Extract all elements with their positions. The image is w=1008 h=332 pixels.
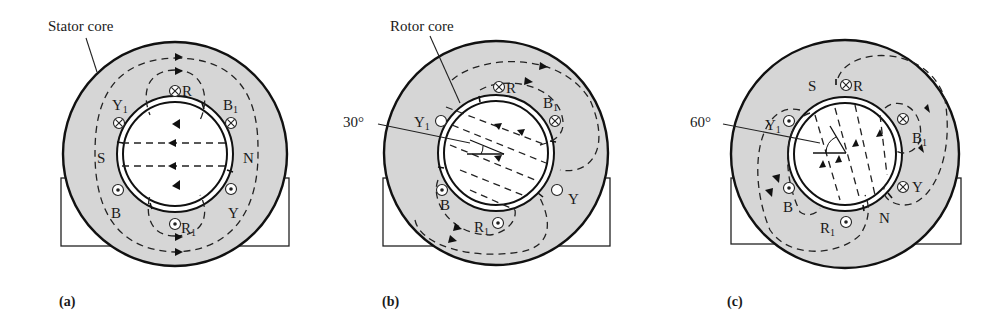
svg-text:B: B <box>783 199 793 215</box>
svg-text:R: R <box>853 78 863 94</box>
caption-a: (a) <box>59 294 76 310</box>
caption-b: (b) <box>382 294 399 310</box>
pole-n: N <box>879 210 890 226</box>
label-b: B <box>783 199 793 215</box>
conductor-r-cross <box>494 82 505 93</box>
pole-s: S <box>97 150 105 166</box>
conductor-b-dot <box>113 185 124 196</box>
conductor-r-cross <box>841 80 852 91</box>
conductor-r1-dot <box>170 219 181 230</box>
label-y1: Y <box>765 117 776 133</box>
conductor-y1-cross <box>114 118 125 129</box>
label-b: B <box>440 197 450 213</box>
svg-text:Y: Y <box>568 191 579 207</box>
svg-text:Y: Y <box>228 205 239 221</box>
label-b: B <box>111 205 121 221</box>
angle-label-30: 30° <box>343 114 364 130</box>
svg-text:B: B <box>111 205 121 221</box>
label-r: R <box>853 78 863 94</box>
conductor-y-empty <box>552 185 563 196</box>
conductor-r1-dot <box>493 218 504 229</box>
conductor-b1-cross <box>550 116 561 127</box>
svg-text:B: B <box>440 197 450 213</box>
label-y1: Y <box>112 97 123 113</box>
conductor-b1-cross <box>226 118 237 129</box>
label-r1: R <box>181 220 191 236</box>
label-y: Y <box>912 179 923 195</box>
callout-leader <box>86 38 97 72</box>
svg-text:R: R <box>182 83 192 99</box>
panel-b: R B1 Y R1 B Y1 30° Rotor core (b) <box>343 18 610 310</box>
pole-n: N <box>243 150 254 166</box>
conductor-b-dot <box>437 185 448 196</box>
label-y1: Y <box>414 114 425 130</box>
label-y: Y <box>228 205 239 221</box>
callout-rotor-core: Rotor core <box>390 18 454 34</box>
pole-s: S <box>808 78 816 94</box>
label-r1: R <box>474 219 484 235</box>
conductor-y-cross <box>898 182 909 193</box>
rotor-core <box>444 101 548 205</box>
angle-label-60: 60° <box>690 114 711 130</box>
label-r: R <box>182 83 192 99</box>
panel-a: R B1 Y R1 B Y1 S N Stator core (a) <box>48 18 289 310</box>
conductor-b-dot <box>784 183 795 194</box>
label-b1: B <box>543 95 553 111</box>
label-r1: R <box>820 220 830 236</box>
svg-text:R: R <box>506 80 516 96</box>
conductor-y1-empty <box>436 116 447 127</box>
conductor-y-dot <box>226 184 237 195</box>
conductor-r1-dot <box>841 217 852 228</box>
svg-text:Y: Y <box>912 179 923 195</box>
conductor-r-cross <box>170 86 181 97</box>
label-b1: B <box>912 130 922 146</box>
conductor-y1-dot <box>784 116 795 127</box>
label-r: R <box>506 80 516 96</box>
panel-c: R B1 Y R1 B Y1 S N 60° (c) <box>690 40 961 310</box>
caption-c: (c) <box>727 294 743 310</box>
rotating-field-figure: R B1 Y R1 B Y1 S N Stator core (a) <box>0 0 1008 332</box>
conductor-b1-cross <box>898 114 909 125</box>
label-y: Y <box>568 191 579 207</box>
callout-stator-core: Stator core <box>48 18 114 34</box>
rotor-core <box>123 102 227 206</box>
label-b1: B <box>223 97 233 113</box>
